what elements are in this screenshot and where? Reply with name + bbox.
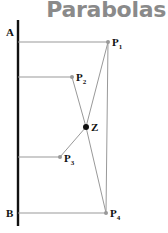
point-z	[83, 124, 89, 130]
label-z: Z	[91, 121, 98, 133]
label-p3: P3	[64, 152, 75, 167]
line-z-p4	[86, 127, 106, 213]
label-a: A	[6, 26, 14, 38]
parabola-diagram: A B P1 P2 P3 P4 Z	[0, 0, 168, 233]
line-p1-z	[86, 42, 108, 127]
point-p3	[58, 155, 62, 159]
point-p1	[106, 40, 110, 44]
label-p1: P1	[112, 36, 123, 51]
label-p2: P2	[76, 71, 87, 86]
line-p1-p4	[106, 42, 108, 213]
point-p4	[104, 211, 108, 215]
label-b: B	[6, 207, 14, 219]
point-p2	[70, 75, 74, 79]
label-p4: P4	[110, 207, 121, 222]
